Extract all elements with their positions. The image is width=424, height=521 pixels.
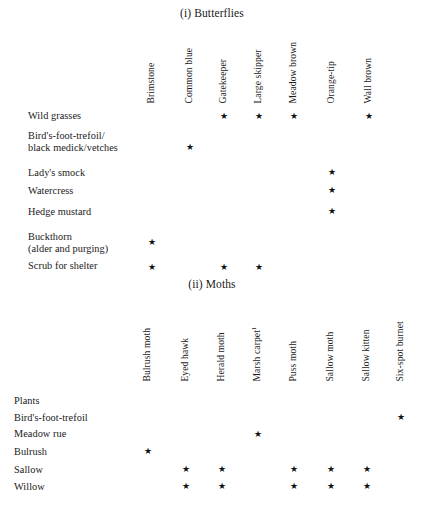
column-header-label: Wall brown — [362, 58, 373, 104]
column-header-label: Large skipper — [252, 50, 263, 104]
star-mark: ★ — [365, 112, 373, 121]
section-title-butterflies: (i) Butterflies — [0, 7, 424, 19]
column-header-meadow-brown: Meadow brown — [288, 42, 298, 104]
star-mark: ★ — [220, 112, 228, 121]
column-header-six-spot-burnet: Six-spot burnet — [395, 322, 405, 382]
row-label-line1: Plants — [14, 395, 39, 406]
star-mark: ★ — [148, 263, 156, 272]
row-label-line1: Lady's smock — [28, 167, 85, 178]
column-header-sallow-moth: Sallow moth — [325, 332, 335, 382]
star-mark: ★ — [327, 465, 335, 474]
column-header-label: Puss moth — [287, 341, 298, 382]
column-header-common-blue: Common blue — [184, 48, 194, 104]
star-mark: ★ — [148, 238, 156, 247]
star-mark: ★ — [186, 143, 194, 152]
star-mark: ★ — [218, 482, 226, 491]
column-header-gatekeeper: Gatekeeper — [218, 59, 228, 104]
row-label: Hedge mustard — [28, 206, 91, 218]
column-header-brimstone: Brimstone — [146, 63, 156, 104]
column-header-label: Orange-tip — [325, 61, 336, 104]
star-mark: ★ — [254, 430, 262, 439]
column-header-bulrush-moth: Bulrush moth — [142, 328, 152, 382]
row-label: Meadow rue — [14, 428, 66, 440]
star-mark: ★ — [327, 482, 335, 491]
star-mark: ★ — [255, 263, 263, 272]
row-label: Bulrush — [14, 446, 47, 458]
row-label-line1: Bird's-foot-trefoil/ — [28, 130, 105, 141]
row-label-line1: Bird's-foot-trefoil — [14, 412, 88, 423]
row-label-line1: Bulrush — [14, 446, 47, 457]
column-header-label: Eyed hawk — [179, 338, 190, 382]
star-mark: ★ — [363, 482, 371, 491]
section-title-moths: (ii) Moths — [0, 278, 424, 290]
row-label-line1: Meadow rue — [14, 428, 66, 439]
figure-page: (i) Butterflies BrimstoneCommon blueGate… — [0, 0, 424, 521]
column-header-label: Six-spot burnet — [394, 322, 405, 382]
row-label-line2: (alder and purging) — [28, 243, 108, 255]
row-label: Wild grasses — [28, 110, 81, 122]
row-label-line1: Watercress — [28, 185, 73, 196]
row-label: Bird's-foot-trefoil — [14, 412, 88, 424]
row-label: Scrub for shelter — [28, 260, 97, 272]
star-mark: ★ — [144, 447, 152, 456]
column-header-label: Gatekeeper — [217, 59, 228, 104]
row-label-line1: Sallow — [14, 464, 43, 475]
row-label: Bird's-foot-trefoil/black medick/vetches — [28, 130, 118, 155]
column-header-large-skipper: Large skipper — [253, 50, 263, 104]
footnote-marker: 1 — [250, 327, 257, 330]
row-label-line1: Wild grasses — [28, 110, 81, 121]
column-header-label: Meadow brown — [287, 42, 298, 104]
star-mark: ★ — [363, 465, 371, 474]
star-mark: ★ — [328, 207, 336, 216]
row-label-line2: black medick/vetches — [28, 142, 118, 154]
row-label: Buckthorn(alder and purging) — [28, 231, 108, 256]
star-mark: ★ — [182, 482, 190, 491]
star-mark: ★ — [290, 465, 298, 474]
star-mark: ★ — [328, 186, 336, 195]
star-mark: ★ — [328, 168, 336, 177]
star-mark: ★ — [290, 482, 298, 491]
column-header-label: Common blue — [183, 48, 194, 104]
row-label: Lady's smock — [28, 167, 85, 179]
star-mark: ★ — [218, 465, 226, 474]
row-label: Watercress — [28, 185, 73, 197]
star-mark: ★ — [255, 112, 263, 121]
row-label: Willow — [14, 481, 45, 493]
column-header-herald-moth: Herald moth — [216, 333, 226, 382]
column-header-label: Sallow moth — [324, 332, 335, 382]
column-header-puss-moth: Puss moth — [288, 341, 298, 382]
star-mark: ★ — [182, 465, 190, 474]
column-header-label: Marsh carpet — [251, 330, 262, 382]
column-header-orange-tip: Orange-tip — [326, 61, 336, 104]
row-label-line1: Hedge mustard — [28, 206, 91, 217]
row-label-line1: Scrub for shelter — [28, 260, 97, 271]
row-label-line1: Buckthorn — [28, 231, 72, 242]
star-mark: ★ — [220, 263, 228, 272]
star-mark: ★ — [290, 112, 298, 121]
row-label-line1: Willow — [14, 481, 45, 492]
column-header-label: Herald moth — [215, 333, 226, 382]
column-header-wall-brown: Wall brown — [363, 58, 373, 104]
star-mark: ★ — [397, 413, 405, 422]
column-header-label: Brimstone — [145, 63, 156, 104]
row-label: Plants — [14, 395, 39, 407]
column-header-eyed-hawk: Eyed hawk — [180, 338, 190, 382]
column-header-label: Sallow kitten — [360, 330, 371, 382]
column-header-sallow-kitten: Sallow kitten — [361, 330, 371, 382]
row-label: Sallow — [14, 464, 43, 476]
column-header-label: Bulrush moth — [141, 328, 152, 382]
column-header-marsh-carpet: Marsh carpet1 — [252, 327, 262, 382]
